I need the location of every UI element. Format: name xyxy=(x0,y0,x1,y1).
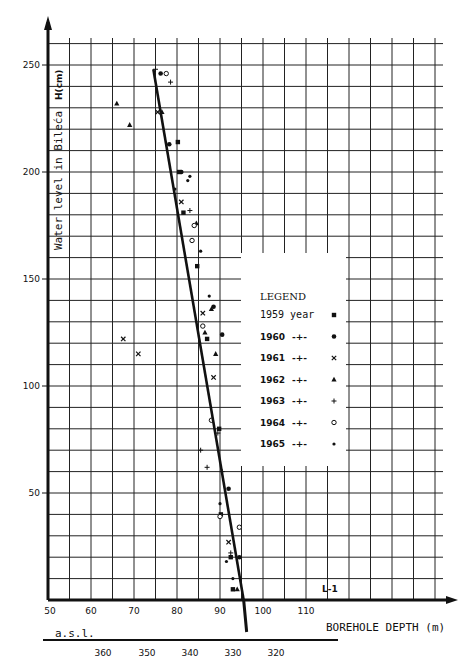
legend-entry-label: 1963 xyxy=(260,396,285,406)
legend-entry-label: 1961 xyxy=(260,353,285,363)
dot-marker-icon xyxy=(218,502,221,505)
legend-line-symbol-icon: -+- xyxy=(292,439,307,449)
square-marker-icon xyxy=(217,427,221,431)
x-tick-label: 100 xyxy=(254,606,271,616)
open-circle-marker-icon xyxy=(192,223,196,227)
y-axis-label: Water level in Bileća xyxy=(52,111,65,250)
triangle-marker-icon xyxy=(114,101,119,106)
x-marker-icon xyxy=(121,337,125,341)
open-circle-marker-icon xyxy=(237,525,241,529)
plus-marker-icon xyxy=(205,465,210,470)
dot-marker-icon xyxy=(225,560,228,563)
x-marker-icon xyxy=(201,311,205,315)
dot-marker-icon xyxy=(332,442,335,445)
legend-line-symbol-icon: -+- xyxy=(292,396,307,406)
y-axis-arrow-icon xyxy=(44,16,52,30)
triangle-marker-icon xyxy=(213,351,218,356)
x-tick-label: 60 xyxy=(85,606,97,616)
plus-marker-icon xyxy=(228,550,233,555)
filled-circle-marker-icon xyxy=(226,486,231,491)
y-tick-label: 50 xyxy=(29,488,41,498)
legend-line-symbol-icon: -+- xyxy=(292,418,307,428)
plus-marker-icon xyxy=(187,208,192,213)
dot-marker-icon xyxy=(199,250,202,253)
trend-line-extension xyxy=(244,600,247,632)
x-axis-label: BOREHOLE DEPTH (m) xyxy=(326,621,445,634)
open-circle-marker-icon xyxy=(164,71,168,75)
secondary-tick-label: 350 xyxy=(138,648,155,658)
legend-title: LEGEND xyxy=(260,291,306,302)
square-marker-icon xyxy=(231,587,235,591)
secondary-tick-label: 360 xyxy=(94,648,111,658)
legend-entry-label: 1962 xyxy=(260,375,285,385)
x-marker-icon xyxy=(226,540,230,544)
open-circle-marker-icon xyxy=(218,514,222,518)
legend-entry-label: 1960 xyxy=(260,332,285,342)
filled-circle-marker-icon xyxy=(158,71,163,76)
y-tick-label: 200 xyxy=(23,167,40,177)
trend-line xyxy=(153,69,246,632)
legend-entry-label: 1964 xyxy=(260,418,285,428)
open-circle-marker-icon xyxy=(332,420,336,424)
filled-circle-marker-icon xyxy=(179,170,184,175)
legend-entry-label: 1965 xyxy=(260,439,285,449)
legend-line-symbol-icon: -+- xyxy=(292,332,307,342)
data-points xyxy=(114,67,241,592)
square-marker-icon xyxy=(229,555,233,559)
open-circle-marker-icon xyxy=(201,324,205,328)
square-marker-icon xyxy=(195,264,199,268)
square-marker-icon xyxy=(332,313,336,317)
triangle-marker-icon xyxy=(235,587,240,592)
dot-marker-icon xyxy=(208,295,211,298)
secondary-tick-label: 340 xyxy=(181,648,198,658)
secondary-axis-label: a.s.l. xyxy=(55,627,95,640)
open-circle-marker-icon xyxy=(190,238,194,242)
square-marker-icon xyxy=(176,140,180,144)
x-tick-label: 110 xyxy=(297,606,314,616)
x-axis-arrow-icon xyxy=(446,596,458,604)
dot-marker-icon xyxy=(186,179,189,182)
x-tick-label: 80 xyxy=(171,606,183,616)
legend-line-symbol-icon: -+- xyxy=(292,375,307,385)
legend-line-symbol-icon: -+- xyxy=(292,353,307,363)
filled-circle-marker-icon xyxy=(220,332,225,337)
square-marker-icon xyxy=(205,337,209,341)
triangle-marker-icon xyxy=(202,330,207,335)
legend: LEGEND 1959 year1960-+-1961-+-1962-+-196… xyxy=(241,253,346,466)
secondary-tick-label: 330 xyxy=(224,648,241,658)
y-tick-label: 150 xyxy=(23,274,40,284)
x-marker-icon xyxy=(179,200,183,204)
dot-marker-icon xyxy=(188,175,191,178)
dot-marker-icon xyxy=(231,577,234,580)
legend-entry-label: 1959 year xyxy=(260,309,314,320)
x-tick-label: 90 xyxy=(214,606,226,616)
triangle-marker-icon xyxy=(127,122,132,127)
y-unit-label: H(cm) xyxy=(54,70,64,100)
x-marker-icon xyxy=(136,352,140,356)
y-tick-label: 100 xyxy=(23,381,40,391)
x-tick-label: 70 xyxy=(128,606,140,616)
secondary-tick-label: 320 xyxy=(267,648,284,658)
plus-marker-icon xyxy=(168,80,173,85)
y-tick-label: 250 xyxy=(23,60,40,70)
x-tick-label: 50 xyxy=(44,606,56,616)
filled-circle-marker-icon xyxy=(332,334,337,339)
x-marker-icon xyxy=(211,375,215,379)
square-marker-icon xyxy=(181,210,185,214)
chart: 5010015020025050607080901001103603503403… xyxy=(0,0,472,669)
annotation-l1: L-1 xyxy=(322,584,338,594)
